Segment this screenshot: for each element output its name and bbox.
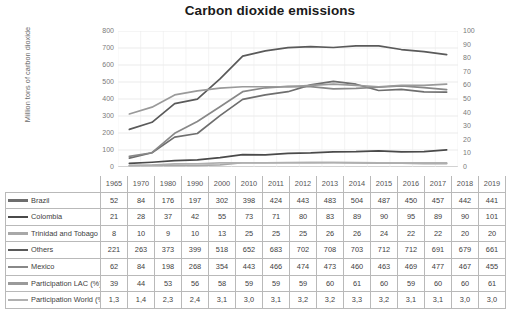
table-cell: 691 — [425, 242, 452, 259]
y-tick-right: 30 — [463, 122, 485, 129]
table-cell: 3,2 — [290, 292, 317, 309]
table-cell: 443 — [290, 192, 317, 209]
table-column-header-2016: 2016 — [398, 176, 425, 192]
table-cell: 60 — [317, 275, 344, 292]
table-cell: 197 — [182, 192, 209, 209]
y-tick-left: 800 — [90, 27, 114, 34]
table-cell: 22 — [425, 225, 452, 242]
legend-swatch-icon — [8, 282, 28, 284]
table-cell: 44 — [128, 275, 155, 292]
table-cell: 80 — [290, 209, 317, 226]
table-row-label: Participation World (%) — [6, 292, 101, 309]
table-cell: 441 — [479, 192, 506, 209]
y-tick-left: 700 — [90, 44, 114, 51]
table-column-header-2014: 2014 — [344, 176, 371, 192]
table-cell: 398 — [236, 192, 263, 209]
plot-area — [118, 31, 458, 167]
table-cell: 59 — [263, 275, 290, 292]
table-cell: 3,1 — [209, 292, 236, 309]
table-cell: 1,3 — [101, 292, 128, 309]
table-cell: 3,2 — [317, 292, 344, 309]
legend-swatch-icon — [8, 232, 28, 234]
table-column-header-2012: 2012 — [290, 176, 317, 192]
table-cell: 25 — [263, 225, 290, 242]
line-chart-svg — [118, 31, 458, 167]
table-cell: 24 — [371, 225, 398, 242]
table-cell: 442 — [452, 192, 479, 209]
y-tick-left: 200 — [90, 129, 114, 136]
page-title: Carbon dioxide emissions — [120, 3, 420, 18]
table-cell: 399 — [182, 242, 209, 259]
table-column-header-2019: 2019 — [479, 176, 506, 192]
legend-swatch-icon — [8, 216, 28, 218]
table-cell: 302 — [209, 192, 236, 209]
y-tick-left: 0 — [90, 163, 114, 170]
table-cell: 84 — [128, 258, 155, 275]
table-cell: 9 — [155, 225, 182, 242]
table-cell: 8 — [101, 225, 128, 242]
table-cell: 53 — [155, 275, 182, 292]
table-cell: 473 — [317, 258, 344, 275]
table-body: Brazil5284176197302398424443483504487450… — [6, 192, 506, 308]
table-cell: 26 — [344, 225, 371, 242]
table-row-label: Trinidad and Tobago — [6, 225, 101, 242]
table-cell: 3,0 — [236, 292, 263, 309]
table-cell: 10 — [128, 225, 155, 242]
table-header-row: 1965197019801990200020102011201220132014… — [6, 176, 506, 192]
table-cell: 28 — [128, 209, 155, 226]
y-tick-right: 10 — [463, 149, 485, 156]
table-cell: 1,4 — [128, 292, 155, 309]
table-row-label: Others — [6, 242, 101, 259]
table-cell: 25 — [236, 225, 263, 242]
table-row: Colombia2128374255737180838990958990101 — [6, 209, 506, 226]
table-cell: 59 — [236, 275, 263, 292]
series-line-mexico — [129, 86, 446, 157]
table-cell: 60 — [452, 275, 479, 292]
table-row-label: Mexico — [6, 258, 101, 275]
table-cell: 13 — [209, 225, 236, 242]
table-cell: 90 — [452, 209, 479, 226]
y-tick-right: 60 — [463, 81, 485, 88]
table-cell: 90 — [371, 209, 398, 226]
table-cell: 176 — [155, 192, 182, 209]
table-cell: 89 — [344, 209, 371, 226]
table-cell: 702 — [290, 242, 317, 259]
table-cell: 474 — [290, 258, 317, 275]
table-cell: 467 — [452, 258, 479, 275]
legend-swatch-icon — [8, 199, 28, 201]
table-cell: 101 — [479, 209, 506, 226]
table-cell: 703 — [344, 242, 371, 259]
legend-swatch-icon — [8, 249, 28, 251]
table-cell: 89 — [425, 209, 452, 226]
table-cell: 457 — [425, 192, 452, 209]
table-cell: 263 — [128, 242, 155, 259]
y-axis-title: Million tons of carbon dioxide — [23, 10, 32, 140]
table-cell: 450 — [398, 192, 425, 209]
table-cell: 59 — [290, 275, 317, 292]
table-column-header-1980: 1980 — [155, 176, 182, 192]
legend-swatch-icon — [8, 299, 28, 301]
table-cell: 652 — [236, 242, 263, 259]
table-cell: 373 — [155, 242, 182, 259]
table-header: 1965197019801990200020102011201220132014… — [6, 176, 506, 192]
table-cell: 3,0 — [479, 292, 506, 309]
series-line-colombia — [129, 150, 446, 164]
table-cell: 60 — [371, 275, 398, 292]
series-line-others — [129, 46, 446, 129]
legend-label: Participation World (%) — [31, 292, 101, 308]
table-cell: 25 — [290, 225, 317, 242]
table-cell: 20 — [452, 225, 479, 242]
table-row: Trinidad and Tobago810910132525252626242… — [6, 225, 506, 242]
table-column-header-2010: 2010 — [236, 176, 263, 192]
table-cell: 58 — [209, 275, 236, 292]
table-cell: 354 — [209, 258, 236, 275]
table-cell: 424 — [263, 192, 290, 209]
y-tick-right: 70 — [463, 68, 485, 75]
table-cell: 20 — [479, 225, 506, 242]
table-column-header-2011: 2011 — [263, 176, 290, 192]
table-column-header-1990: 1990 — [182, 176, 209, 192]
table-cell: 62 — [101, 258, 128, 275]
table-cell: 708 — [317, 242, 344, 259]
table-cell: 455 — [479, 258, 506, 275]
data-table: 1965197019801990200020102011201220132014… — [5, 176, 506, 309]
